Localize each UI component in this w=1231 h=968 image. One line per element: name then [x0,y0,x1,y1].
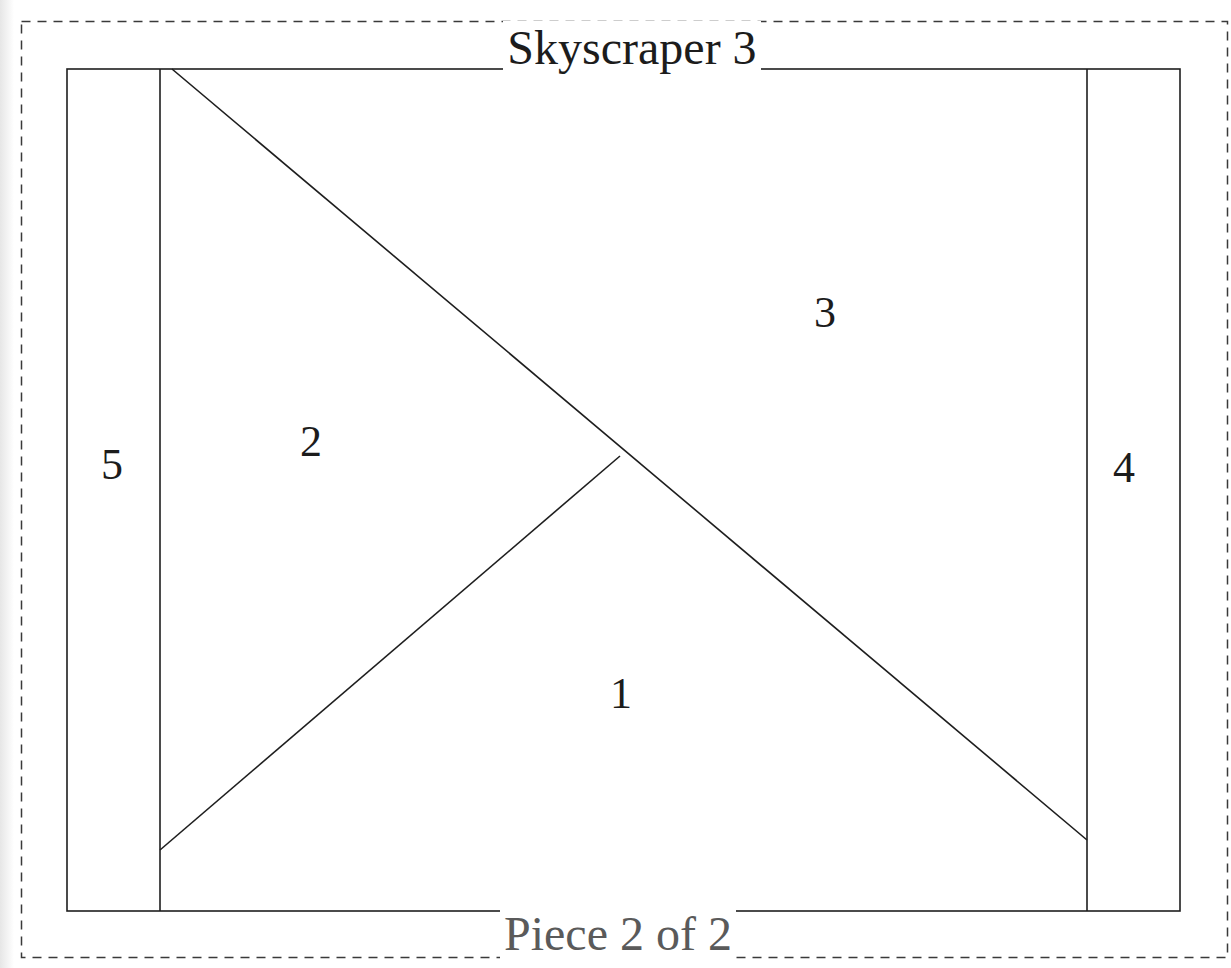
piece-count-footer: Piece 2 of 2 [0,906,1231,962]
piece-count-text: Piece 2 of 2 [500,907,736,960]
piece-label-3: 3 [814,289,836,337]
seam-line-short-diagonal [160,456,620,850]
piece-label-2: 2 [300,418,322,466]
seam-allowance-border [22,22,1228,958]
piecing-pattern-diagram [0,0,1231,968]
piece-label-5: 5 [101,441,123,489]
piece-label-1: 1 [610,670,632,718]
pattern-title-text: Skyscraper 3 [503,21,760,74]
piece-label-4: 4 [1113,444,1135,492]
pattern-title: Skyscraper 3 [0,20,1231,76]
block-outline [67,69,1180,911]
